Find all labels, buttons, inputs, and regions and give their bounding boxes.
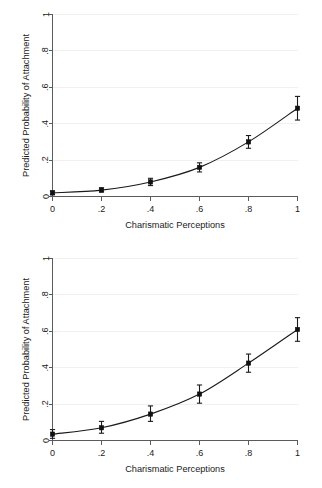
data-point-2 — [148, 412, 152, 416]
figure-container: 0.2.4.6.810.2.4.6.81Charismatic Percepti… — [0, 0, 322, 488]
data-point-3 — [197, 392, 201, 396]
x-axis-title: Charismatic Perceptions — [125, 220, 225, 230]
x-tick-label-5: 1 — [295, 204, 300, 214]
x-tick-label-0: 0 — [50, 448, 55, 458]
x-tick-label-0: 0 — [50, 204, 55, 214]
data-point-1 — [99, 188, 103, 192]
data-point-2 — [148, 180, 152, 184]
data-point-5 — [295, 106, 299, 110]
chart-panel-top: 0.2.4.6.810.2.4.6.81Charismatic Percepti… — [0, 0, 322, 244]
x-tick-label-2: .4 — [147, 448, 155, 458]
y-axis-title: Predicted Probability of Attachment — [21, 34, 31, 177]
y-tick-label-3: .6 — [41, 84, 51, 92]
y-tick-label-5: 1 — [41, 12, 51, 17]
y-tick-label-0: 0 — [41, 438, 51, 443]
data-point-4 — [246, 361, 250, 365]
y-tick-label-2: .4 — [41, 120, 51, 128]
x-tick-label-1: .2 — [98, 204, 106, 214]
data-point-1 — [99, 426, 103, 430]
x-tick-label-1: .2 — [98, 448, 106, 458]
y-tick-label-4: .8 — [41, 47, 51, 55]
x-tick-label-5: 1 — [295, 448, 300, 458]
data-point-4 — [246, 140, 250, 144]
x-tick-label-3: .6 — [196, 448, 204, 458]
chart-svg-bottom: 0.2.4.6.810.2.4.6.81Charismatic Percepti… — [0, 244, 322, 488]
series-line — [53, 329, 298, 434]
data-point-3 — [197, 165, 201, 169]
y-tick-label-5: 1 — [41, 256, 51, 261]
chart-panel-bottom: 0.2.4.6.810.2.4.6.81Charismatic Percepti… — [0, 244, 322, 488]
x-tick-label-4: .8 — [245, 448, 253, 458]
y-tick-label-1: .2 — [41, 400, 51, 408]
data-point-0 — [50, 191, 54, 195]
data-point-5 — [295, 327, 299, 331]
series-line — [53, 108, 298, 193]
y-axis-title: Predicted Probability of Attachment — [21, 278, 31, 421]
y-tick-label-0: 0 — [41, 194, 51, 199]
y-tick-label-2: .4 — [41, 364, 51, 372]
x-tick-label-2: .4 — [147, 204, 155, 214]
data-point-0 — [50, 432, 54, 436]
y-tick-label-1: .2 — [41, 156, 51, 164]
x-tick-label-3: .6 — [196, 204, 204, 214]
y-tick-label-4: .8 — [41, 291, 51, 299]
x-tick-label-4: .8 — [245, 204, 253, 214]
x-axis-title: Charismatic Perceptions — [125, 464, 225, 474]
y-tick-label-3: .6 — [41, 328, 51, 336]
chart-svg-top: 0.2.4.6.810.2.4.6.81Charismatic Percepti… — [0, 0, 322, 244]
